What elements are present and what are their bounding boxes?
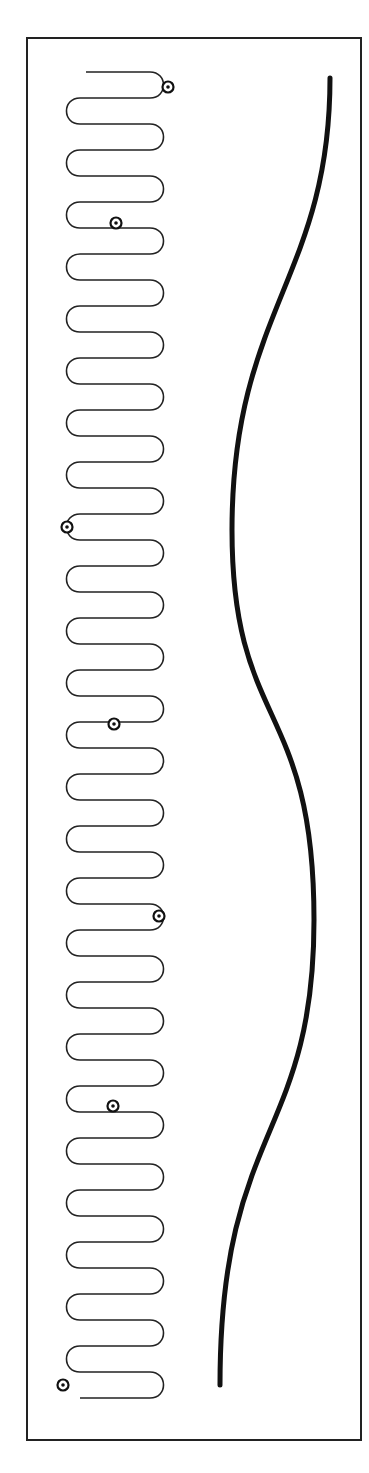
wave-curve [220,78,330,1385]
marker-dot [114,221,118,225]
marker-group [58,82,174,1391]
marker-dot [166,85,170,89]
marker-dot [65,525,69,529]
marker-dot [61,1383,65,1387]
serpentine-strand [67,72,164,1398]
marker-dot [111,1104,115,1108]
marker-dot [112,722,116,726]
diagram-canvas [0,0,369,1473]
marker-dot [157,914,161,918]
